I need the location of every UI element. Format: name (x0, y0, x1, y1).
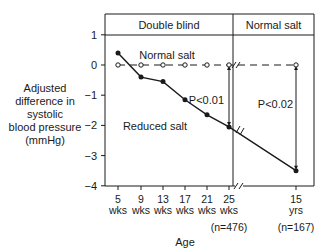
reduced-salt-point (161, 79, 166, 84)
x-tick-unit: wks (108, 204, 127, 216)
y-tick-label: −3 (84, 150, 97, 162)
p-value-15yrs: P<0.02 (258, 98, 293, 110)
x-axis-label: Age (175, 236, 195, 248)
x-tick-unit: yrs (289, 204, 303, 216)
reduced-salt-point (116, 50, 121, 55)
reduced-salt-point (205, 112, 210, 117)
x-tick-unit: wks (153, 204, 172, 216)
normal-salt-point (161, 63, 165, 67)
reduced-salt-point (139, 75, 144, 80)
series-label-reduced-salt: Reduced salt (123, 120, 187, 132)
series-label-normal-salt: Normal salt (139, 49, 195, 61)
line-break-mark (240, 128, 244, 135)
p-value-25wks: P<0.01 (189, 94, 224, 106)
normal-salt-point (139, 63, 143, 67)
normal-salt-point (116, 63, 120, 67)
sample-size-25wks: (n=476) (211, 221, 247, 233)
normal-salt-point (205, 63, 209, 67)
normal-salt-point (183, 63, 187, 67)
y-tick-label: 1 (91, 29, 97, 41)
reduced-salt-line (118, 53, 296, 171)
x-tick-unit: wks (175, 204, 194, 216)
x-tick-unit: wks (197, 204, 216, 216)
line-break-mark (236, 126, 240, 133)
x-tick-unit: wks (219, 204, 238, 216)
y-tick-label: 0 (91, 59, 97, 71)
reduced-salt-point (183, 97, 188, 102)
chart: Double blindNormal salt10−1−2−3−45wks9wk… (0, 0, 331, 251)
y-tick-label: −2 (84, 119, 97, 131)
panel-title-normal-salt: Normal salt (246, 19, 302, 31)
sample-size-15yrs: (n=167) (278, 221, 314, 233)
y-tick-label: −4 (84, 180, 97, 192)
x-tick-unit: wks (131, 204, 150, 216)
panel-title-double-blind: Double blind (138, 19, 199, 31)
y-tick-label: −1 (84, 89, 97, 101)
